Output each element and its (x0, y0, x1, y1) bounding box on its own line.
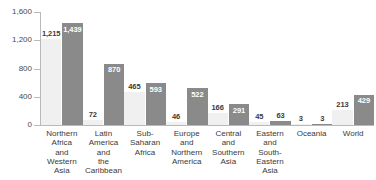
bar-value-label: 45 (255, 112, 263, 121)
bar-value-label: 3 (299, 114, 303, 123)
bar-light: 72 (83, 120, 103, 125)
x-axis-category-label: Northern Africa and Western Asia (41, 129, 83, 175)
bar-group: 213429 (332, 12, 374, 125)
y-axis-tick-label: 1,200 (0, 35, 32, 44)
bar-dark: 291 (229, 104, 249, 125)
bar-dark: 1,439 (62, 23, 82, 125)
y-axis-tick-label: 0 (0, 120, 32, 129)
bar-group: 72870 (83, 12, 125, 125)
y-axis-tick (34, 40, 41, 41)
bar-pair: 4563 (249, 12, 291, 125)
bar-light: 213 (332, 110, 352, 125)
bar-value-label: 465 (128, 82, 140, 91)
bar-group: 46522 (166, 12, 208, 125)
bar-group: 4563 (249, 12, 291, 125)
y-axis-tick-label: 400 (0, 92, 32, 101)
y-axis-tick-label: 1,600 (0, 7, 32, 16)
bar-value-label: 166 (211, 103, 223, 112)
bar-pair: 46522 (166, 12, 208, 125)
bar-value-label: 3 (320, 114, 324, 123)
bar-value-label: 291 (233, 106, 245, 115)
y-axis-tick (34, 12, 41, 13)
x-axis-baseline (40, 125, 374, 126)
bar-value-label: 870 (108, 65, 120, 74)
bar-value-label: 429 (358, 96, 370, 105)
y-axis-tick (34, 69, 41, 70)
x-axis-category-label: Latin America and the Caribbean (83, 129, 125, 175)
bar-pair: 33 (291, 12, 333, 125)
bar-dark: 870 (104, 64, 124, 125)
bar-value-label: 1,439 (63, 25, 82, 34)
bar-group: 1,2151,439 (41, 12, 83, 125)
bar-light: 1,215 (41, 39, 61, 125)
bar-light: 45 (249, 122, 269, 125)
bar-dark: 3 (312, 124, 332, 126)
y-axis-tick (34, 125, 41, 126)
bar-pair: 1,2151,439 (41, 12, 83, 125)
bar-pair: 72870 (83, 12, 125, 125)
bar-light: 3 (291, 124, 311, 126)
x-axis-category-label: Europe and Northern America (166, 129, 208, 166)
bar-value-label: 213 (336, 100, 348, 109)
bar-pair: 166291 (208, 12, 250, 125)
bar-dark: 429 (354, 95, 374, 125)
bar-light: 465 (124, 92, 144, 125)
bar-value-label: 46 (172, 112, 180, 121)
bar-value-label: 63 (276, 111, 284, 120)
bar-pair: 213429 (332, 12, 374, 125)
x-axis-category-label: Central and Southern Asia (208, 129, 250, 166)
bar-dark: 593 (146, 83, 166, 125)
bar-pair: 465593 (124, 12, 166, 125)
y-axis-tick-label: 800 (0, 64, 32, 73)
bar-group: 166291 (208, 12, 250, 125)
bar-value-label: 72 (89, 110, 97, 119)
bar-value-label: 1,215 (42, 29, 61, 38)
x-axis-category-label: Oceania (291, 129, 333, 138)
x-axis-category-label: World (332, 129, 374, 138)
bar-chart: 04008001,2001,600 1,2151,439728704655934… (0, 0, 376, 180)
x-axis-category-label: Sub- Saharan Africa (124, 129, 166, 157)
bar-light: 46 (166, 122, 186, 125)
bar-group: 465593 (124, 12, 166, 125)
bar-value-label: 593 (150, 85, 162, 94)
bar-group: 33 (291, 12, 333, 125)
x-axis-category-label: Eastern and South- Eastern Asia (249, 129, 291, 175)
plot-area: 1,2151,439728704655934652216629145633321… (41, 12, 374, 125)
bar-dark: 522 (187, 88, 207, 125)
bar-light: 166 (208, 113, 228, 125)
bar-dark: 63 (270, 121, 290, 125)
y-axis-tick (34, 97, 41, 98)
bar-value-label: 522 (191, 90, 203, 99)
